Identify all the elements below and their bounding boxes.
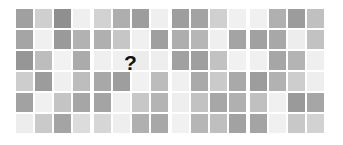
panel-1-row-4 — [16, 72, 90, 91]
cell — [16, 114, 33, 133]
panel-2-row-4 — [94, 72, 168, 91]
cell — [210, 72, 227, 91]
cell — [269, 9, 286, 28]
panel-4-row-6 — [250, 114, 324, 133]
cell — [288, 114, 305, 133]
cell — [132, 9, 149, 28]
panel-3-row-5 — [172, 93, 246, 112]
panel-3-row-1 — [172, 9, 246, 28]
cell — [73, 72, 90, 91]
cell — [172, 93, 189, 112]
cell — [269, 72, 286, 91]
cell — [191, 72, 208, 91]
cell — [35, 93, 52, 112]
cell — [269, 93, 286, 112]
panel-1-row-6 — [16, 114, 90, 133]
cell — [288, 51, 305, 70]
cell — [73, 93, 90, 112]
panel-3-row-3 — [172, 51, 246, 70]
cell — [229, 72, 246, 91]
cell — [250, 114, 267, 133]
cell — [35, 114, 52, 133]
cell — [229, 51, 246, 70]
cell — [307, 51, 324, 70]
cell — [94, 9, 111, 28]
cell — [307, 93, 324, 112]
panel-container: ? — [0, 0, 343, 145]
cell — [250, 51, 267, 70]
cell — [16, 93, 33, 112]
cell — [210, 93, 227, 112]
panel-3[interactable] — [172, 9, 246, 134]
cell — [191, 30, 208, 49]
panel-4[interactable] — [250, 9, 324, 134]
panel-2-row-2 — [94, 30, 168, 49]
cell — [269, 30, 286, 49]
panel-4-row-5 — [250, 93, 324, 112]
cell — [132, 93, 149, 112]
cell — [210, 114, 227, 133]
cell — [94, 72, 111, 91]
panel-1[interactable] — [16, 9, 90, 134]
cell — [288, 93, 305, 112]
panel-3-row-6 — [172, 114, 246, 133]
cell — [35, 9, 52, 28]
cell — [94, 30, 111, 49]
panel-2[interactable]: ? — [94, 9, 168, 134]
panel-1-row-3 — [16, 51, 90, 70]
cell — [16, 51, 33, 70]
cell — [229, 9, 246, 28]
cell — [288, 72, 305, 91]
cell — [54, 93, 71, 112]
cell — [288, 30, 305, 49]
cell — [73, 114, 90, 133]
cell — [288, 9, 305, 28]
cell — [151, 72, 168, 91]
cell — [307, 72, 324, 91]
cell — [172, 9, 189, 28]
puzzle-root: ? — [0, 0, 343, 145]
cell — [307, 30, 324, 49]
cell — [94, 51, 111, 70]
cell — [94, 93, 111, 112]
panel-1-row-2 — [16, 30, 90, 49]
panel-3-row-2 — [172, 30, 246, 49]
cell — [191, 9, 208, 28]
cell — [151, 30, 168, 49]
cell — [113, 114, 130, 133]
cell — [113, 72, 130, 91]
cell — [229, 30, 246, 49]
cell — [113, 93, 130, 112]
cell — [35, 30, 52, 49]
cell — [210, 30, 227, 49]
cell — [172, 114, 189, 133]
cell — [250, 9, 267, 28]
cell — [54, 51, 71, 70]
cell — [132, 72, 149, 91]
panel-4-row-3 — [250, 51, 324, 70]
cell — [172, 30, 189, 49]
cell — [151, 114, 168, 133]
cell — [250, 30, 267, 49]
cell — [191, 51, 208, 70]
cell — [269, 51, 286, 70]
cell — [35, 51, 52, 70]
cell — [250, 93, 267, 112]
cell — [210, 51, 227, 70]
cell — [16, 72, 33, 91]
panel-4-row-2 — [250, 30, 324, 49]
panel-4-row-4 — [250, 72, 324, 91]
cell — [250, 72, 267, 91]
cell — [151, 51, 168, 70]
panel-2-row-6 — [94, 114, 168, 133]
cell — [191, 114, 208, 133]
cell — [191, 93, 208, 112]
panel-2-row-1 — [94, 9, 168, 28]
cell — [73, 9, 90, 28]
cell — [269, 114, 286, 133]
panel-3-row-4 — [172, 72, 246, 91]
cell — [307, 114, 324, 133]
cell — [73, 51, 90, 70]
cell — [73, 30, 90, 49]
cell — [132, 114, 149, 133]
